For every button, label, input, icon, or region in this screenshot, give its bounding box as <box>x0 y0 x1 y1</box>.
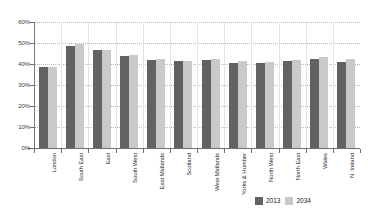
x-tick-label: Yorks & Humber <box>241 153 247 195</box>
bar-group <box>197 22 224 148</box>
bar-group <box>88 22 115 148</box>
bar-2034[interactable] <box>48 67 57 148</box>
x-tick-label: East <box>105 153 111 165</box>
bar-2034[interactable] <box>238 61 247 148</box>
legend-swatch-icon-2013 <box>255 197 263 205</box>
x-tick-label: London <box>51 153 57 172</box>
x-tick-mark <box>61 149 62 153</box>
bar-group <box>224 22 251 148</box>
x-tick-label: Scotland <box>186 153 192 176</box>
bar-group <box>34 22 61 148</box>
x-tick-mark <box>197 149 198 153</box>
x-axis-line <box>28 148 360 149</box>
x-tick-mark <box>34 149 35 153</box>
y-tick-label: 30% <box>2 82 30 88</box>
bar-2013[interactable] <box>174 61 183 148</box>
y-tick-label: 0% <box>2 145 30 151</box>
x-tick-mark <box>143 149 144 153</box>
x-tick-mark <box>224 149 225 153</box>
bar-2013[interactable] <box>202 60 211 148</box>
x-tick-label: East Midlands <box>159 153 165 189</box>
bar-2034[interactable] <box>102 50 111 148</box>
x-tick-label: South West <box>132 153 138 183</box>
bar-2034[interactable] <box>346 59 355 148</box>
y-tick-label: 60% <box>2 19 30 25</box>
bar-2013[interactable] <box>337 62 346 148</box>
x-tick-label: North East <box>295 153 301 180</box>
x-tick-label: West Midlands <box>214 153 220 191</box>
plot-area <box>34 22 360 148</box>
legend-label-2013: 2013 <box>266 197 280 205</box>
legend-label-2034: 2034 <box>296 197 310 205</box>
bar-group <box>251 22 278 148</box>
bar-2013[interactable] <box>120 56 129 148</box>
x-tick-label: South East <box>78 153 84 181</box>
y-tick-label: 20% <box>2 103 30 109</box>
bar-group <box>170 22 197 148</box>
bar-2013[interactable] <box>39 67 48 148</box>
y-tick-label: 10% <box>2 124 30 130</box>
bar-2013[interactable] <box>310 59 319 148</box>
plot-frame <box>34 22 360 148</box>
x-tick-mark <box>116 149 117 153</box>
bar-chart: 0%10%20%30%40%50%60% LondonSouth EastEas… <box>0 0 368 220</box>
x-tick-mark <box>360 149 361 153</box>
chart-legend: 2013 2034 <box>255 197 311 205</box>
legend-item-2034[interactable]: 2034 <box>285 197 310 205</box>
y-tick-label: 50% <box>2 40 30 46</box>
x-tick-mark <box>279 149 280 153</box>
bar-2013[interactable] <box>93 50 102 148</box>
bar-2034[interactable] <box>319 57 328 148</box>
bar-2034[interactable] <box>211 59 220 148</box>
legend-swatch-icon-2034 <box>285 197 293 205</box>
bar-group <box>116 22 143 148</box>
bar-2034[interactable] <box>129 55 138 148</box>
x-tick-label: N. Ireland <box>349 153 355 178</box>
bar-group <box>61 22 88 148</box>
legend-item-2013[interactable]: 2013 <box>255 197 280 205</box>
bar-2034[interactable] <box>75 44 84 148</box>
bar-group <box>143 22 170 148</box>
bar-2013[interactable] <box>283 61 292 148</box>
x-tick-label: North West <box>268 153 274 182</box>
bar-2013[interactable] <box>66 46 75 148</box>
bar-2034[interactable] <box>265 62 274 148</box>
bar-2034[interactable] <box>156 59 165 148</box>
bar-2013[interactable] <box>229 63 238 148</box>
bar-2013[interactable] <box>256 63 265 148</box>
x-tick-mark <box>333 149 334 153</box>
y-tick-label: 40% <box>2 61 30 67</box>
x-tick-mark <box>88 149 89 153</box>
x-tick-label: Wales <box>322 153 328 169</box>
bar-2034[interactable] <box>292 60 301 148</box>
x-tick-mark <box>306 149 307 153</box>
bar-group <box>279 22 306 148</box>
bar-2034[interactable] <box>183 61 192 148</box>
x-tick-mark <box>170 149 171 153</box>
bar-2013[interactable] <box>147 60 156 148</box>
x-tick-mark <box>251 149 252 153</box>
bar-group <box>333 22 360 148</box>
bar-group <box>306 22 333 148</box>
